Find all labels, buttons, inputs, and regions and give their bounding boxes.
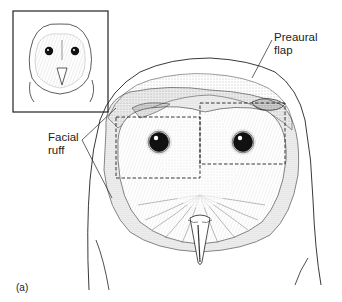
owl-head-illustration <box>88 58 321 290</box>
facial-ruff-label: Facial ruff <box>48 131 79 157</box>
facial-ruff-label-line2: ruff <box>48 144 79 157</box>
panel-label: (a) <box>16 281 28 294</box>
left-eye <box>146 129 172 155</box>
preaural-flap-label-line1: Preaural <box>274 31 317 44</box>
facial-ruff-label-line1: Facial <box>48 131 79 144</box>
preaural-flap-label: Preaural flap <box>274 31 317 57</box>
right-eye <box>230 129 256 155</box>
inset-thumbnail <box>13 11 108 112</box>
preaural-flap-label-line2: flap <box>274 44 317 57</box>
